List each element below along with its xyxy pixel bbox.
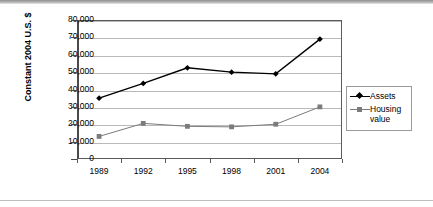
data-point-marker (318, 104, 323, 109)
x-axis-tick-mark (298, 159, 299, 163)
legend-label-line2: value (370, 114, 390, 124)
legend-label-line1: Housing (370, 104, 401, 114)
data-point-marker (273, 122, 278, 127)
chart-legend: Assets Housing value (346, 86, 412, 131)
data-point-marker (141, 121, 146, 126)
y-axis-title: Constant 2004 U.S. $ (23, 0, 33, 137)
series-plot (77, 20, 342, 159)
x-axis-tick-mark (342, 159, 343, 163)
x-axis-tick-mark (165, 159, 166, 163)
x-axis-tick-label: 1998 (210, 167, 254, 176)
data-point-marker (229, 124, 234, 129)
data-point-marker (185, 124, 190, 129)
legend-item-housing-value: Housing value (350, 104, 409, 124)
x-axis-tick-label: 2004 (298, 167, 342, 176)
x-axis-tick-label: 1992 (121, 167, 165, 176)
series-line-assets (99, 39, 320, 98)
chart-figure: Constant 2004 U.S. $ 010,00020,00030,000… (0, 4, 433, 200)
x-axis-tick-mark (77, 159, 78, 163)
data-point-marker (229, 69, 235, 75)
data-point-marker (96, 95, 102, 101)
data-point-marker (140, 81, 146, 87)
x-axis-tick-mark (210, 159, 211, 163)
legend-marker-diamond-icon (350, 91, 370, 102)
legend-marker-square-icon (350, 104, 370, 115)
legend-label-assets: Assets (370, 91, 396, 101)
x-axis-tick-label: 2001 (254, 167, 298, 176)
series-line-housing-value (99, 107, 320, 137)
x-axis-tick-label: 1989 (77, 167, 121, 176)
legend-item-assets: Assets (350, 91, 409, 102)
x-axis-tick-mark (254, 159, 255, 163)
data-point-marker (185, 65, 191, 71)
legend-label-housing-value: Housing value (370, 104, 401, 124)
bottom-divider-rule (0, 200, 433, 201)
data-point-marker (97, 134, 102, 139)
x-axis-tick-mark (121, 159, 122, 163)
x-axis-tick-label: 1995 (165, 167, 209, 176)
